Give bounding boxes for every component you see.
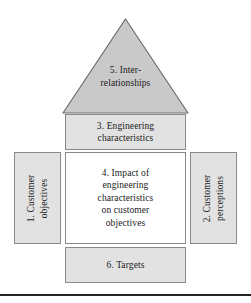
bottom-divider-rule <box>0 294 251 296</box>
roof-label: 5. Inter- relationships <box>62 64 189 89</box>
customer-objectives-label: 1. Customer objectives <box>25 174 50 222</box>
engineering-label-line1: 3. Engineering <box>97 120 154 133</box>
impact-label: 4. Impact of engineering characteristics… <box>98 167 154 230</box>
customer-objectives-label-line2: objectives <box>38 174 51 222</box>
house-of-quality-diagram: 5. Inter- relationships 3. Engineering c… <box>0 0 251 303</box>
box-impact-matrix: 4. Impact of engineering characteristics… <box>65 152 186 244</box>
impact-label-line3: characteristics <box>98 192 154 205</box>
customer-perceptions-label: 2. Customer perceptions <box>201 174 226 222</box>
roof-label-line2: relationships <box>62 77 189 90</box>
customer-objectives-label-line1: 1. Customer <box>26 174 36 222</box>
box-customer-perceptions: 2. Customer perceptions <box>190 152 237 244</box>
customer-perceptions-label-line1: 2. Customer <box>202 174 212 222</box>
impact-label-line4: on customer <box>98 204 154 217</box>
customer-perceptions-label-line2: perceptions <box>214 174 227 222</box>
box-engineering-characteristics: 3. Engineering characteristics <box>65 114 186 150</box>
engineering-label-line2: characteristics <box>97 132 154 145</box>
box-customer-objectives: 1. Customer objectives <box>14 152 61 244</box>
engineering-label: 3. Engineering characteristics <box>97 120 154 145</box>
box-targets: 6. Targets <box>65 247 186 283</box>
impact-label-line1: 4. Impact of <box>98 167 154 180</box>
roof-interrelationships: 5. Inter- relationships <box>62 18 189 114</box>
impact-label-line2: engineering <box>98 179 154 192</box>
impact-label-line5: objectives <box>98 217 154 230</box>
roof-label-line1: 5. Inter- <box>110 65 141 75</box>
targets-label: 6. Targets <box>107 259 145 272</box>
